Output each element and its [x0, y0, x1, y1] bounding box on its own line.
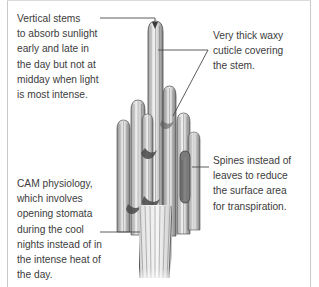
cactus-arms [117, 21, 200, 287]
leader-cuticle-diagonal [173, 50, 208, 116]
cactus-bud [180, 151, 190, 203]
figure-canvas: Vertical stems to absorb sunlight early … [0, 0, 319, 287]
central-vertical-stem [148, 21, 163, 238]
callout-vertical-stems: Vertical stems to absorb sunlight early … [17, 11, 122, 102]
page-border-left [7, 0, 8, 287]
callout-waxy-cuticle: Very thick waxy cuticle covering the ste… [213, 28, 313, 74]
page-border-top [7, 0, 311, 1]
leader-arrowhead [152, 22, 158, 29]
callout-cam-physiology: CAM physiology, which involves opening s… [17, 176, 122, 282]
callout-spines: Spines instead of leaves to reduce the s… [213, 153, 313, 214]
